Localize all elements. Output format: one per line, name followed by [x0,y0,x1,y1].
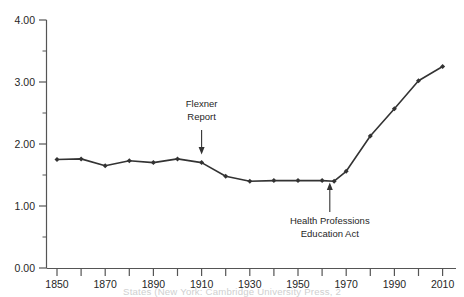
annotation-health-professions-education-act: Health Professions Education Act [290,183,370,240]
data-point-1880 [127,158,132,163]
y-axis-major-ticks [39,20,47,268]
annotation-flexner-label-line1: Flexner [186,98,218,109]
data-point-1890 [151,160,156,165]
arrow-down-icon [199,147,205,155]
y-tick-label-0: 0.00 [15,262,36,274]
data-point-1870 [103,163,108,168]
cut-off-source-caption: States (New York: Cambridge University P… [0,286,464,297]
data-point-1960 [320,178,325,183]
arrow-up-icon [327,183,333,191]
y-tick-label-3: 3.00 [15,76,36,88]
data-point-1850 [55,157,60,162]
y-tick-label-1: 1.00 [15,200,36,212]
y-tick-label-4: 4.00 [15,14,36,26]
data-point-1930 [247,179,252,184]
x-axis-ticks [57,269,443,277]
annotation-flexner-label-line2: Report [187,111,216,122]
annotation-flexner-report: Flexner Report [186,98,218,155]
data-point-1940 [271,178,276,183]
annotation-hpea-label-line2: Education Act [301,228,359,239]
data-series-line [57,67,443,182]
data-point-1900 [175,156,180,161]
data-point-markers [55,64,446,184]
annotation-hpea-label-line1: Health Professions [290,215,370,226]
data-point-1860 [79,156,84,161]
y-tick-label-2: 2.00 [15,138,36,150]
data-point-1950 [296,178,301,183]
